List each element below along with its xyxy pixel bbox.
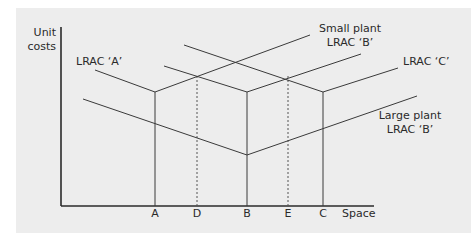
y-axis-label-line1: Unit: [20, 26, 56, 39]
label-large-plant-line2: LRAC ‘B’: [373, 123, 447, 136]
curve-small-plant-lrac-b: [164, 54, 361, 92]
tick-label-e: E: [282, 207, 294, 220]
curve-large-plant-lrac-b: [83, 96, 417, 155]
curve-lrac-c: [184, 45, 398, 92]
label-lrac-a: LRAC ‘A’: [76, 55, 122, 68]
tick-label-b: B: [241, 207, 253, 220]
label-large-plant-line1: Large plant: [373, 109, 447, 122]
tick-label-d: D: [191, 207, 203, 220]
tick-label-c: C: [317, 207, 329, 220]
label-small-plant-line1: Small plant: [315, 22, 385, 35]
curve-lrac-a: [95, 35, 310, 92]
label-lrac-c: LRAC ‘C’: [403, 55, 450, 68]
x-axis-label: Space: [342, 207, 376, 220]
tick-label-a: A: [149, 207, 161, 220]
y-axis-label-line2: costs: [20, 40, 56, 53]
label-small-plant-line2: LRAC ‘B’: [315, 36, 385, 49]
